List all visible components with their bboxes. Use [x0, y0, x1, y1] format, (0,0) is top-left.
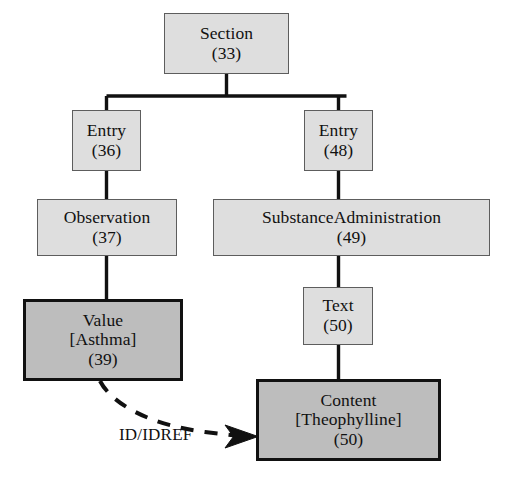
node-section-label: Section — [200, 24, 253, 44]
node-value-asthma-label: Value — [83, 311, 123, 331]
node-entry-36-label: Entry — [87, 121, 126, 141]
node-value-asthma-number: (39) — [88, 350, 118, 370]
node-text-number: (50) — [323, 316, 353, 336]
node-text[interactable]: Text (50) — [303, 287, 373, 345]
node-entry-36-number: (36) — [92, 141, 122, 161]
node-content-theophylline-label: Content — [320, 391, 376, 411]
node-content-theophylline-number: (50) — [334, 430, 364, 450]
node-observation-label: Observation — [64, 208, 151, 228]
diagram-canvas: Section (33) Entry (36) Entry (48) Obser… — [0, 0, 507, 483]
node-section-number: (33) — [212, 44, 242, 64]
node-content-theophylline[interactable]: Content [Theophylline] (50) — [256, 379, 441, 461]
node-substance-administration-number: (49) — [337, 228, 367, 248]
node-observation-number: (37) — [92, 228, 122, 248]
node-entry-36[interactable]: Entry (36) — [72, 110, 141, 171]
node-section[interactable]: Section (33) — [164, 13, 289, 74]
edge-section-to-entries — [107, 74, 347, 110]
node-value-asthma-bracket: [Asthma] — [70, 330, 137, 350]
node-entry-48-number: (48) — [324, 141, 354, 161]
node-value-asthma[interactable]: Value [Asthma] (39) — [23, 299, 183, 381]
node-substance-administration[interactable]: SubstanceAdministration (49) — [213, 199, 490, 256]
node-content-theophylline-bracket: [Theophylline] — [295, 410, 401, 430]
node-text-label: Text — [322, 296, 353, 316]
node-observation[interactable]: Observation (37) — [37, 199, 177, 256]
node-substance-administration-label: SubstanceAdministration — [262, 208, 441, 228]
edge-label-id-idref: ID/IDREF — [119, 425, 192, 445]
node-entry-48[interactable]: Entry (48) — [304, 110, 373, 171]
node-entry-48-label: Entry — [319, 121, 358, 141]
